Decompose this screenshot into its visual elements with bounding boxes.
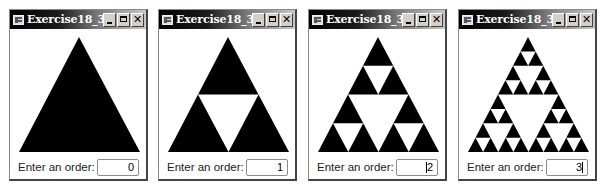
sierpinski-triangle-graphic [159, 29, 296, 154]
close-button[interactable]: ✕ [280, 13, 293, 27]
title-bar[interactable]: Exercise18_36 ✕ [159, 10, 295, 29]
triangle [333, 95, 363, 124]
order-label: Enter an order: [18, 161, 97, 173]
order-input[interactable]: 3 [546, 159, 588, 176]
maximize-button[interactable] [416, 13, 429, 27]
order-label: Enter an order: [467, 161, 546, 173]
triangle [521, 37, 536, 51]
triangle [528, 51, 543, 65]
triangle [318, 123, 348, 152]
window-title: Exercise18_36 [326, 13, 402, 26]
sierpinski-triangle-graphic [459, 29, 596, 154]
order-input[interactable]: 2 [396, 159, 438, 176]
title-bar[interactable]: Exercise18_36 ✕ [309, 10, 445, 29]
order-input-row: Enter an order: 1 [159, 156, 295, 178]
triangle [513, 51, 528, 65]
window-order-1: Exercise18_36 ✕ Enter an order: 1 [158, 9, 297, 181]
order-input[interactable]: 0 [97, 159, 139, 176]
triangle [513, 80, 528, 94]
close-button[interactable]: ✕ [430, 13, 443, 27]
triangle [491, 95, 506, 109]
order-value: 2 [426, 161, 433, 173]
maximize-button[interactable] [566, 13, 579, 27]
minimize-button[interactable] [402, 13, 415, 27]
sierpinski-canvas [159, 29, 296, 154]
triangle [498, 80, 513, 94]
window-title: Exercise18_36 [27, 13, 103, 26]
triangle [476, 123, 491, 137]
triangle [19, 37, 140, 152]
title-bar[interactable]: Exercise18_36 ✕ [459, 10, 595, 29]
triangle [566, 123, 581, 137]
order-input-row: Enter an order: 0 [10, 156, 146, 178]
triangle [544, 109, 559, 123]
triangle [529, 138, 544, 152]
triangle [229, 95, 290, 153]
order-input-row: Enter an order: 3 [459, 156, 595, 178]
triangle [506, 123, 521, 137]
triangle [409, 123, 439, 152]
window-title: Exercise18_36 [476, 13, 552, 26]
triangle [483, 138, 498, 152]
app-icon[interactable] [13, 15, 24, 25]
maximize-button[interactable] [117, 13, 130, 27]
triangle [536, 66, 551, 80]
maximize-button[interactable] [266, 13, 279, 27]
window-title: Exercise18_36 [176, 13, 252, 26]
minimize-button[interactable] [552, 13, 565, 27]
triangle [574, 138, 589, 152]
triangle [348, 123, 378, 152]
triangle [483, 109, 498, 123]
triangle [468, 138, 483, 152]
minimize-button[interactable] [252, 13, 265, 27]
triangle [543, 80, 558, 94]
order-label: Enter an order: [167, 161, 246, 173]
triangle [559, 109, 574, 123]
sierpinski-canvas [459, 29, 596, 154]
sierpinski-canvas [10, 29, 147, 154]
order-value: 3 [576, 161, 583, 173]
triangle [379, 123, 409, 152]
app-icon[interactable] [162, 15, 173, 25]
window-order-0: Exercise18_36 ✕ Enter an order: 0 [9, 9, 148, 181]
triangle [168, 95, 229, 153]
triangle [498, 138, 513, 152]
window-order-2: Exercise18_36 ✕ Enter an order: 2 [308, 9, 447, 181]
triangle [348, 66, 378, 95]
close-button[interactable]: ✕ [131, 13, 144, 27]
app-icon[interactable] [462, 15, 473, 25]
title-bar[interactable]: Exercise18_36 ✕ [10, 10, 146, 29]
triangle [544, 138, 559, 152]
triangle [536, 123, 551, 137]
triangle [528, 80, 543, 94]
triangle [551, 95, 566, 109]
sierpinski-triangle-graphic [309, 29, 446, 154]
order-label: Enter an order: [317, 161, 396, 173]
minimize-button[interactable] [103, 13, 116, 27]
triangle [378, 66, 408, 95]
triangle [198, 37, 259, 95]
window-order-3: Exercise18_36 ✕ Enter an order: 3 [458, 9, 597, 181]
sierpinski-triangle-graphic [10, 29, 147, 154]
close-button[interactable]: ✕ [580, 13, 593, 27]
sierpinski-canvas [309, 29, 446, 154]
order-input-row: Enter an order: 2 [309, 156, 445, 178]
triangle [498, 109, 513, 123]
app-icon[interactable] [312, 15, 323, 25]
triangle [394, 95, 424, 124]
triangle [513, 138, 528, 152]
triangle [559, 138, 574, 152]
triangle [506, 66, 521, 80]
order-input[interactable]: 1 [246, 159, 288, 176]
triangle [363, 37, 393, 66]
